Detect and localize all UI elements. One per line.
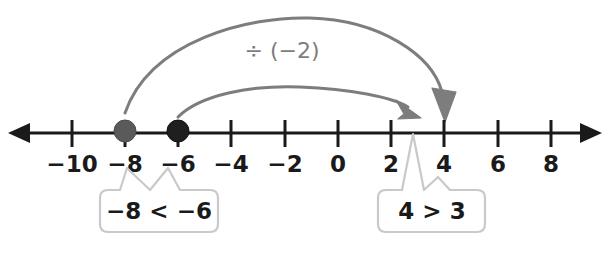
plotted-points — [114, 120, 189, 142]
tick-label-minus-4: −4 — [213, 151, 248, 177]
number-line-axis — [8, 120, 602, 147]
tick-label-8: 8 — [543, 151, 559, 177]
tick-label-minus-10: −10 — [46, 151, 97, 177]
outer-arc-down-arrowhead — [432, 88, 456, 122]
tick-label-minus-2: −2 — [267, 151, 302, 177]
tick-label-4: 4 — [436, 151, 452, 177]
axis-left-arrowhead — [8, 123, 30, 143]
tick-label-0: 0 — [330, 151, 346, 177]
arc-group — [125, 18, 456, 122]
inner-arc-right-arrowhead — [396, 100, 421, 119]
callout-left: −8 < −6 — [100, 168, 218, 232]
callout-right: 4 > 3 — [378, 134, 485, 232]
callout-right-text: 4 > 3 — [398, 198, 465, 224]
callout-left-text: −8 < −6 — [106, 198, 212, 224]
tick-label-2: 2 — [383, 151, 399, 177]
operation-label: ÷ (−2) — [244, 38, 319, 63]
tick-label-group: −10 −8 −6 −4 −2 0 2 4 6 8 — [46, 151, 559, 177]
inner-arc — [178, 87, 408, 117]
point-dot-minus-6 — [167, 120, 189, 142]
tick-label-6: 6 — [490, 151, 506, 177]
axis-right-arrowhead — [580, 123, 602, 143]
outer-arc — [125, 18, 442, 113]
point-dot-minus-8 — [114, 120, 136, 142]
number-line-figure: ÷ (−2) −10 −8 −6 −4 −2 0 — [0, 0, 610, 253]
